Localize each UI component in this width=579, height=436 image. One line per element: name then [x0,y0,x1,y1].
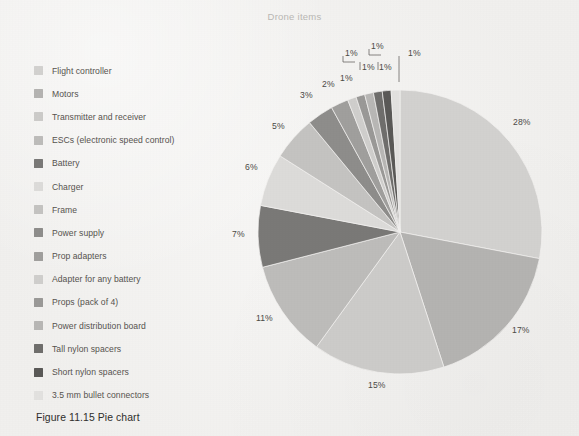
legend-swatch-icon [34,298,43,307]
legend-swatch-icon [34,112,43,121]
legend-item-label: Frame [52,205,77,215]
legend-item[interactable]: Props (pack of 4) [34,291,249,314]
legend-item[interactable]: Tall nylon spacers [34,337,249,360]
chart-legend: Flight controllerMotorsTransmitter and r… [34,59,249,407]
legend-item-label: Charger [52,182,83,192]
legend-swatch-icon [34,66,43,75]
legend-swatch-icon [34,275,43,284]
legend-item-label: 3.5 mm bullet connectors [52,390,149,400]
legend-swatch-icon [34,391,43,400]
legend-item-label: Prop adapters [52,251,107,261]
legend-swatch-icon [34,205,43,214]
legend-item-label: Props (pack of 4) [52,297,118,307]
legend-item-label: Power distribution board [52,321,146,331]
chart-title: Drone items [0,11,579,22]
legend-swatch-icon [34,89,43,98]
legend-item[interactable]: Short nylon spacers [34,360,249,383]
legend-swatch-icon [34,321,43,330]
legend-item-label: Battery [52,158,80,168]
legend-swatch-icon [34,228,43,237]
legend-item-label: Motors [52,89,79,99]
legend-item[interactable]: Prop adapters [34,245,249,268]
legend-item[interactable]: ESCs (electronic speed control) [34,129,249,152]
legend-item-label: Power supply [52,228,104,238]
legend-item-label: Short nylon spacers [52,367,129,377]
legend-swatch-icon [34,182,43,191]
legend-item-label: ESCs (electronic speed control) [52,135,174,145]
legend-item[interactable]: Power distribution board [34,314,249,337]
legend-swatch-icon [34,344,43,353]
legend-swatch-icon [34,136,43,145]
legend-item[interactable]: Charger [34,175,249,198]
legend-item[interactable]: Frame [34,198,249,221]
legend-swatch-icon [34,159,43,168]
legend-item[interactable]: Adapter for any battery [34,268,249,291]
legend-item[interactable]: 3.5 mm bullet connectors [34,384,249,407]
legend-item-label: Transmitter and receiver [52,112,146,122]
legend-item[interactable]: Flight controller [34,59,249,82]
legend-swatch-icon [34,252,43,261]
legend-item[interactable]: Motors [34,82,249,105]
legend-swatch-icon [34,368,43,377]
legend-item[interactable]: Power supply [34,221,249,244]
legend-item-label: Adapter for any battery [52,274,141,284]
legend-item[interactable]: Battery [34,152,249,175]
legend-item-label: Flight controller [52,66,112,76]
legend-item-label: Tall nylon spacers [52,344,121,354]
legend-item[interactable]: Transmitter and receiver [34,105,249,128]
figure-caption: Figure 11.15 Pie chart [36,412,140,423]
